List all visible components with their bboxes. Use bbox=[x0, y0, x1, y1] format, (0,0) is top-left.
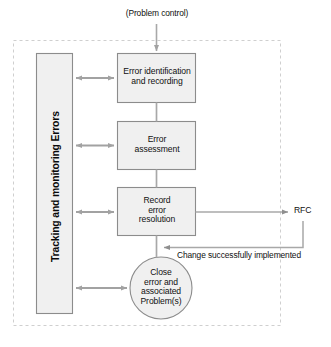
edge-label-change-successfully-implemented: Change successfully implemented bbox=[177, 251, 301, 260]
node-label-error-assessment: Error assessment bbox=[118, 135, 196, 154]
rfc-label: RFC bbox=[294, 206, 311, 216]
error-control-diagram: (Problem control) Tracking and monitorin… bbox=[0, 0, 331, 347]
node-label-close-error-and-associated-problems: Close error and associated Problem(s) bbox=[128, 268, 194, 307]
node-label-error-identification-and-recording: Error identification and recording bbox=[118, 67, 196, 86]
swimlane-label: Tracking and monitoring Errors bbox=[50, 111, 61, 262]
entry-label: (Problem control) bbox=[97, 9, 217, 18]
node-label-record-error-resolution: Record error resolution bbox=[118, 196, 196, 225]
